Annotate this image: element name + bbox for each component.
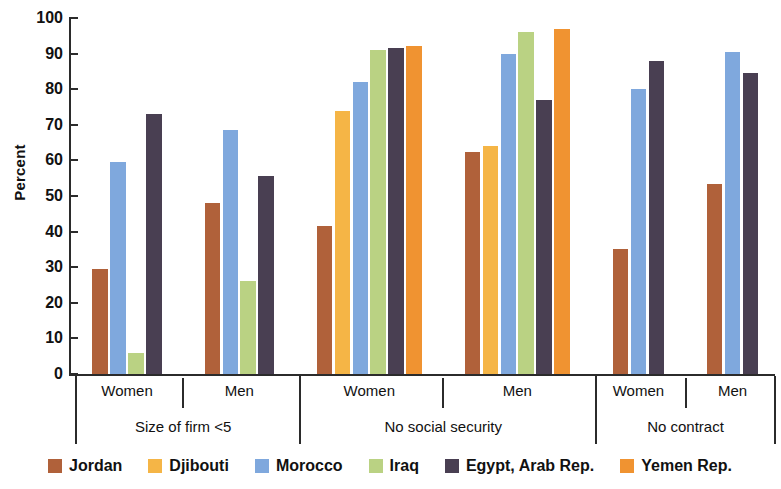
bar <box>518 32 534 374</box>
legend-label: Jordan <box>69 458 122 474</box>
subgroup-separator <box>442 378 444 408</box>
bar <box>205 203 221 374</box>
bar <box>335 111 351 374</box>
legend-item: Morocco <box>255 458 343 474</box>
bar <box>370 50 386 374</box>
bar <box>128 353 144 374</box>
x-axis-group-label: No social security <box>300 418 586 435</box>
bar-chart: Percent 0102030405060708090100 Size of f… <box>0 0 781 489</box>
bar <box>146 114 162 374</box>
bar <box>406 46 422 374</box>
legend-label: Yemen Rep. <box>641 458 732 474</box>
bar <box>92 269 108 374</box>
bar <box>240 281 256 374</box>
plot-bars <box>0 17 781 374</box>
x-axis-subgroup-label: Women <box>301 382 438 399</box>
x-axis-subgroup-label: Women <box>597 382 680 399</box>
bar <box>613 249 629 374</box>
bar <box>554 29 570 374</box>
x-axis-group-label: No contract <box>596 418 775 435</box>
bar <box>725 52 741 374</box>
bar <box>388 48 404 374</box>
legend-swatch <box>620 459 634 473</box>
subgroup-separator <box>182 378 184 408</box>
bar <box>258 176 274 374</box>
legend-swatch <box>148 459 162 473</box>
bar <box>631 89 647 374</box>
legend-label: Djibouti <box>169 458 229 474</box>
x-axis-subgroup-label: Men <box>189 382 290 399</box>
legend-item: Yemen Rep. <box>620 458 732 474</box>
legend-item: Egypt, Arab Rep. <box>445 458 594 474</box>
bar <box>536 100 552 374</box>
legend-swatch <box>445 459 459 473</box>
x-axis-subgroup-label: Women <box>76 382 177 399</box>
legend-label: Morocco <box>276 458 343 474</box>
legend-swatch <box>369 459 383 473</box>
subgroup-separator <box>685 378 687 408</box>
chart-legend: JordanDjiboutiMoroccoIraqEgypt, Arab Rep… <box>0 455 781 485</box>
legend-item: Djibouti <box>148 458 229 474</box>
x-axis-subgroup-label: Men <box>449 382 586 399</box>
bar <box>483 146 499 374</box>
legend-swatch <box>48 459 62 473</box>
bar <box>353 82 369 374</box>
legend-item: Iraq <box>369 458 419 474</box>
bar <box>110 162 126 374</box>
legend-item: Jordan <box>48 458 122 474</box>
bar <box>223 130 239 374</box>
bar <box>501 54 517 374</box>
bar <box>465 152 481 375</box>
legend-swatch <box>255 459 269 473</box>
x-axis-line <box>69 374 775 376</box>
legend-label: Egypt, Arab Rep. <box>466 458 594 474</box>
x-axis-subgroup-label: Men <box>691 382 774 399</box>
bar <box>649 61 665 374</box>
bar <box>317 226 333 374</box>
bar <box>707 184 723 374</box>
legend-label: Iraq <box>390 458 419 474</box>
bar <box>743 73 759 374</box>
x-axis-group-label: Size of firm <5 <box>76 418 291 435</box>
